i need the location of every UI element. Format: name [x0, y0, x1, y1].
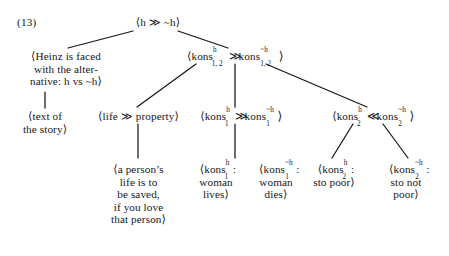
- node-line: that person⟩: [96, 213, 181, 226]
- kons-expression: ⟨konsh2:: [318, 163, 351, 176]
- node-line: ⟨kons~h1:: [243, 163, 309, 176]
- node-line: woman: [185, 176, 247, 189]
- node-line: ⟨Heinz is faced: [8, 50, 124, 63]
- node-life-property: ⟨life ≫ property⟩: [90, 110, 187, 123]
- subscript: 2: [357, 120, 361, 128]
- kons-expression: ⟨konsh2≪kons~h2⟩: [332, 110, 408, 123]
- superscript: ~h: [260, 46, 268, 54]
- kons-expression: ⟨kons~h2:: [389, 163, 423, 176]
- superscript: h: [358, 106, 362, 114]
- subscript: 2: [398, 120, 402, 128]
- node-line: poor⟩: [373, 188, 439, 201]
- superscript: ~h: [398, 106, 406, 114]
- node-line: ⟨a person’s: [96, 163, 181, 176]
- node-kons-2-not-h-sto-not-poor: ⟨kons~h2: sto not poor⟩: [373, 163, 439, 201]
- superscript: ~h: [266, 106, 274, 114]
- node-line: life is to: [96, 176, 181, 189]
- node-line: native: h vs ~h⟩: [8, 75, 124, 88]
- node-line: sto not: [373, 176, 439, 189]
- node-line: be saved,: [96, 188, 181, 201]
- node-line: woman: [243, 176, 309, 189]
- subscript: 1: [285, 173, 289, 181]
- kons-expression: ⟨kons~h1:: [259, 163, 293, 176]
- node-kons-1: ⟨konsh1≫kons~h1⟩: [192, 110, 284, 123]
- edge-kons12-to-kons2: [266, 64, 367, 107]
- edge-kons2-to-poor: [332, 124, 353, 158]
- node-line: lives⟩: [185, 188, 247, 201]
- edge-root-to-heinz: [68, 31, 133, 48]
- subscript: 1: [266, 120, 270, 128]
- superscript: ~h: [415, 159, 423, 167]
- subscript: 2: [415, 173, 419, 181]
- node-line: the story⟩: [8, 123, 82, 136]
- edge-kons2-to-not-poor: [383, 124, 408, 158]
- node-line: ⟨konsh1:: [185, 163, 247, 176]
- subscript: 1: [225, 120, 229, 128]
- node-a-persons-life: ⟨a person’s life is to be saved, if you …: [96, 163, 181, 226]
- subscript: 1: [224, 173, 228, 181]
- node-root: ⟨h ≫ ~h⟩: [128, 16, 188, 29]
- node-kons-1-2: ⟨konsh1, 2≫kons~h1, 2⟩: [170, 50, 294, 63]
- node-line: if you love: [96, 201, 181, 214]
- superscript: h: [226, 159, 230, 167]
- superscript: h: [226, 106, 230, 114]
- node-line: dies⟩: [243, 188, 309, 201]
- node-line: ⟨text of: [8, 110, 82, 123]
- node-line: ⟨kons~h2:: [373, 163, 439, 176]
- example-number-label: (13): [17, 16, 36, 29]
- node-line: sto poor⟩: [303, 176, 365, 189]
- superscript: h: [344, 159, 348, 167]
- node-kons-1-not-h-woman-dies: ⟨kons~h1: woman dies⟩: [243, 163, 309, 201]
- subscript: 1, 2: [260, 60, 271, 68]
- superscript: h: [213, 46, 217, 54]
- edge-kons12-to-life-property: [137, 64, 196, 107]
- subscript: 1, 2: [212, 60, 223, 68]
- node-line: with the alter-: [8, 63, 124, 76]
- node-kons-2: ⟨konsh2≪kons~h2⟩: [322, 110, 418, 123]
- node-text-of-the-story: ⟨text of the story⟩: [8, 110, 82, 135]
- kons-expression: ⟨konsh1, 2≫kons~h1, 2⟩: [187, 50, 277, 63]
- kons-expression: ⟨konsh1≫kons~h1⟩: [200, 110, 276, 123]
- edge-root-to-kons12: [178, 31, 228, 48]
- node-heinz-alternative: ⟨Heinz is faced with the alter- native: …: [8, 50, 124, 88]
- node-kons-1-h-woman-lives: ⟨konsh1: woman lives⟩: [185, 163, 247, 201]
- node-kons-2-h-sto-poor: ⟨konsh2: sto poor⟩: [303, 163, 365, 188]
- subscript: 2: [342, 173, 346, 181]
- tree-diagram-figure: (13) ⟨h ≫ ~h⟩ ⟨Heinz is faced with the a…: [0, 0, 449, 256]
- node-line: ⟨konsh2:: [303, 163, 365, 176]
- superscript: ~h: [285, 159, 293, 167]
- kons-expression: ⟨konsh1:: [200, 163, 233, 176]
